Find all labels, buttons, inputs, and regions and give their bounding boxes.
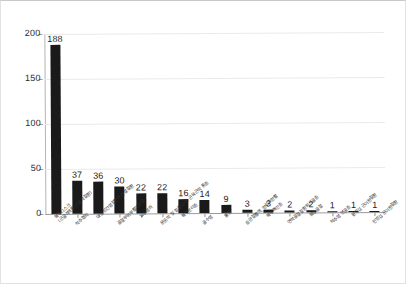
- x-label-line: 척추협착: [74, 212, 89, 227]
- y-tick-label: 100: [1, 118, 41, 128]
- gridline: [45, 77, 385, 80]
- y-tick-label: 200: [0, 28, 40, 38]
- y-tick-label: 50: [1, 163, 41, 173]
- bar: [200, 200, 210, 213]
- y-axis-ticks: 050100150200: [0, 34, 41, 215]
- bar: [157, 193, 167, 213]
- plot-area: 1883736302222161493322111: [44, 32, 385, 214]
- bar-value-label: 188: [43, 34, 67, 44]
- bar-chart-figure: 050100150200 1883736302222161493322111 척…: [0, 0, 406, 284]
- y-tick-label: 150: [1, 73, 41, 83]
- gridline: [45, 122, 385, 125]
- x-axis-labels: 척추디스크(근골격계통(근골격질환)척추협착다발성간염질환과 관절질환골절부위부…: [0, 212, 406, 284]
- x-label-line: 골수염: [202, 214, 214, 226]
- x-axis-category-label: 골수염: [202, 214, 214, 226]
- gridline: [44, 32, 384, 35]
- bar: [50, 45, 61, 214]
- x-axis-category-label: 척추협착: [74, 212, 89, 227]
